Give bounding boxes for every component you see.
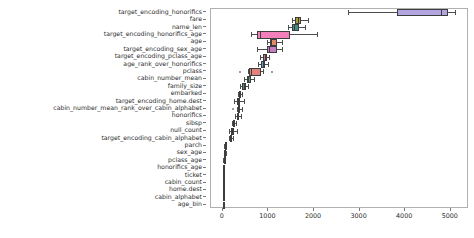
box-iqr <box>292 24 299 31</box>
median-line <box>223 172 224 179</box>
median-line <box>234 120 235 127</box>
cap-high <box>242 92 243 97</box>
whisker-high <box>448 12 455 13</box>
box-iqr <box>257 31 291 38</box>
boxplot-figure: target_encoding_honorificsfarename_lenta… <box>0 0 474 238</box>
x-tick-label: 4000 <box>396 212 412 220</box>
median-line <box>269 46 270 53</box>
box-iqr <box>267 46 277 53</box>
x-tick-label: 5000 <box>442 212 458 220</box>
y-tick-label: target_encoding_honorifics_age <box>104 31 202 37</box>
x-tick-mark <box>313 208 314 211</box>
x-tick-mark <box>267 208 268 211</box>
cap-low <box>267 40 268 45</box>
boxplot-series <box>211 9 467 207</box>
median-line <box>251 68 252 75</box>
median-line <box>232 128 233 135</box>
y-tick-mark <box>203 63 206 64</box>
x-tick-mark <box>222 208 223 211</box>
median-line <box>238 98 239 105</box>
cap-high <box>233 136 234 141</box>
y-tick-mark <box>203 130 206 131</box>
cap-high <box>236 121 237 126</box>
y-tick-mark <box>203 182 206 183</box>
y-tick-mark <box>203 189 206 190</box>
median-line <box>248 76 249 83</box>
cap-high <box>269 55 270 60</box>
y-tick-label: sex_age <box>177 149 202 155</box>
median-line <box>230 135 231 142</box>
median-line <box>240 91 241 98</box>
cap-low <box>292 18 293 23</box>
x-tick-mark <box>404 208 405 211</box>
y-tick-label: cabin_number_mean <box>137 75 202 81</box>
y-tick-label: ticket <box>185 172 202 178</box>
y-tick-mark <box>203 70 206 71</box>
cap-high <box>317 32 318 37</box>
y-tick-label: family_size <box>168 83 202 89</box>
plot-area <box>210 8 468 208</box>
y-tick-label: target_encoding_cabin_alphabet <box>101 135 202 141</box>
cap-low <box>257 47 258 52</box>
cap-high <box>242 107 243 112</box>
median-line <box>223 187 224 194</box>
y-tick-label: honorifics <box>172 112 202 118</box>
median-line <box>244 83 245 90</box>
median-line <box>298 17 299 24</box>
y-tick-label: parch <box>185 142 202 148</box>
y-tick-mark <box>203 115 206 116</box>
whisker-low <box>257 49 266 50</box>
y-tick-label: cabin_number_mean_rank_over_cabin_alphab… <box>53 105 202 111</box>
y-tick-mark <box>203 48 206 49</box>
y-tick-mark <box>203 159 206 160</box>
cap-high <box>305 25 306 30</box>
cap-low <box>251 32 252 37</box>
cap-low <box>260 55 261 60</box>
cap-low <box>244 77 245 82</box>
cap-high <box>237 129 238 134</box>
y-tick-mark <box>203 41 206 42</box>
median-line <box>263 61 264 68</box>
y-tick-label: target_encoding_pclass_age <box>115 53 202 59</box>
cap-high <box>282 47 283 52</box>
y-tick-mark <box>203 167 206 168</box>
y-tick-mark <box>203 145 206 146</box>
y-tick-label: cabin_count <box>165 179 202 185</box>
y-tick-label: age <box>190 38 202 44</box>
cap-high <box>248 84 249 89</box>
x-tick-mark <box>359 208 360 211</box>
median-line <box>239 105 240 112</box>
x-tick-label: 3000 <box>350 212 366 220</box>
y-tick-label: home.dest <box>169 186 202 192</box>
cap-high <box>244 99 245 104</box>
whisker-high <box>299 27 306 28</box>
outlier-point <box>239 71 241 73</box>
y-tick-mark <box>203 78 206 79</box>
y-tick-label: name_len <box>172 23 202 29</box>
y-tick-mark <box>203 174 206 175</box>
y-tick-mark <box>203 85 206 86</box>
median-line <box>238 113 239 120</box>
y-tick-label: null_count <box>170 127 202 133</box>
cap-high <box>254 77 255 82</box>
cap-low <box>240 84 241 89</box>
median-line <box>265 54 266 61</box>
median-line <box>223 202 224 209</box>
cap-low <box>348 10 349 15</box>
y-tick-label: honorifics_age <box>157 164 202 170</box>
y-tick-mark <box>203 100 206 101</box>
y-tick-mark <box>203 137 206 138</box>
y-tick-mark <box>203 196 206 197</box>
outlier-point <box>271 71 273 73</box>
y-tick-label: pclass_age <box>168 157 202 163</box>
cap-high <box>263 69 264 74</box>
cap-high <box>268 62 269 67</box>
y-tick-mark <box>203 11 206 12</box>
cap-low <box>258 62 259 67</box>
y-tick-label: target_encoding_sex_age <box>123 46 202 52</box>
x-tick-label: 0 <box>220 212 224 220</box>
y-tick-label: target_encoding_honorifics <box>118 9 202 15</box>
y-tick-label: age_rank_over_honorifics <box>123 60 202 66</box>
x-tick-label: 1000 <box>259 212 275 220</box>
y-tick-label: fare <box>190 16 202 22</box>
